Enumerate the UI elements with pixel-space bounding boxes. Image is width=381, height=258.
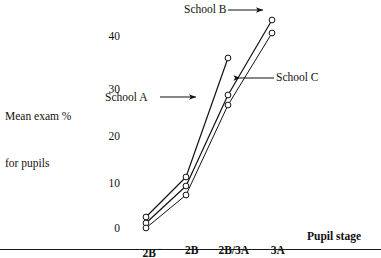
annotation-label-school-c: School C [276, 71, 319, 85]
data-point-school-c-2B3A [225, 102, 231, 108]
data-point-school-b-3A [269, 17, 275, 23]
data-point-school-a-2B [183, 174, 189, 180]
data-point-school-b-2B3A [225, 92, 231, 98]
annotation-label-school-a: School A [105, 91, 148, 105]
x-axis-title: Pupil stage [307, 230, 361, 244]
y-axis-title-line-2: for pupils [5, 156, 71, 172]
series-lines [146, 20, 272, 228]
data-point-school-b-2B [183, 183, 189, 189]
data-point-school-c-3A [269, 30, 275, 36]
annotation-label-school-b: School B [184, 3, 227, 17]
chart-figure: 40 30 20 10 0 Mean exam % for pupils 2B−… [0, 0, 381, 258]
y-axis-title: Mean exam % for pupils [5, 78, 71, 202]
data-point-school-c-2B [183, 192, 189, 198]
bottom-horizontal-rule [0, 249, 381, 250]
y-axis-tick-40: 40 [86, 30, 120, 44]
series-line-school-b [146, 20, 272, 223]
y-axis-tick-20: 20 [86, 130, 120, 144]
y-axis-tick-10: 10 [86, 177, 120, 191]
data-point-school-a-2B3A [225, 55, 231, 61]
annotation-arrows [160, 10, 274, 97]
y-axis-title-line-1: Mean exam % [5, 109, 71, 125]
x-axis-tick-3a: 3A [237, 230, 307, 258]
data-point-school-a-2Bminus [143, 214, 149, 220]
